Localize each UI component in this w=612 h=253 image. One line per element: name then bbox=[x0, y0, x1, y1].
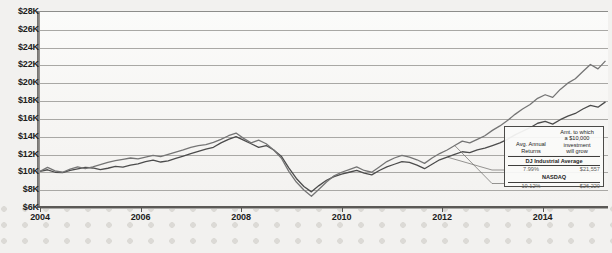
legend-table: Avg. Annual Returns Amt. to which a $10,… bbox=[504, 126, 604, 187]
legend-row-name-djia: DJ Industrial Average bbox=[505, 157, 603, 165]
djia-amount: $21,557 bbox=[554, 166, 600, 172]
legend-row-name-nasdaq: NASDAQ bbox=[505, 173, 603, 181]
djia-avg-return: 7.99% bbox=[508, 166, 554, 172]
legend-row-values-nasdaq: 10.12% $26,220 bbox=[505, 183, 603, 190]
leader-line bbox=[447, 157, 504, 170]
legend-col2-header: Amt. to which a $10,000 investment will … bbox=[554, 129, 600, 155]
nasdaq-amount: $26,220 bbox=[554, 183, 600, 189]
nasdaq-avg-return: 10.12% bbox=[508, 183, 554, 189]
legend-col1-header: Avg. Annual Returns bbox=[508, 141, 554, 154]
legend-header-row: Avg. Annual Returns Amt. to which a $10,… bbox=[505, 127, 603, 155]
legend-row-values-djia: 7.99% $21,557 bbox=[505, 166, 603, 173]
stock-growth-line-chart: $28K$26K$24K$22K$20K$18K$16K$14K$12K$10K… bbox=[0, 0, 612, 253]
